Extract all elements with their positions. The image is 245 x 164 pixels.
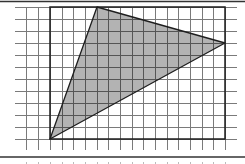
bottom-tick xyxy=(225,162,226,164)
bottom-tick xyxy=(120,162,121,164)
shaded-triangle xyxy=(50,7,225,139)
bottom-tick xyxy=(132,162,133,164)
bottom-tick xyxy=(73,162,74,164)
bottom-tick xyxy=(167,162,168,164)
bottom-tick xyxy=(62,162,63,164)
bottom-tick xyxy=(38,162,39,164)
bottom-tick xyxy=(190,162,191,164)
bottom-tick xyxy=(97,162,98,164)
bottom-tick xyxy=(50,162,51,164)
bottom-tick xyxy=(213,162,214,164)
bottom-tick xyxy=(178,162,179,164)
bottom-tick-marks xyxy=(26,162,226,164)
bottom-tick xyxy=(202,162,203,164)
bottom-tick xyxy=(85,162,86,164)
bottom-tick xyxy=(108,162,109,164)
bottom-tick xyxy=(155,162,156,164)
bottom-tick xyxy=(26,162,27,164)
grid-triangle-diagram xyxy=(0,0,245,164)
bottom-tick xyxy=(143,162,144,164)
